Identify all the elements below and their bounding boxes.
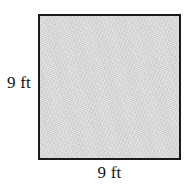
figure-canvas: 9 ft 9 ft: [0, 0, 190, 188]
square-shape: [38, 14, 181, 160]
dimension-label-bottom: 9 ft: [38, 164, 181, 181]
square-fill-texture: [40, 16, 179, 158]
dimension-label-left: 9 ft: [3, 74, 35, 91]
